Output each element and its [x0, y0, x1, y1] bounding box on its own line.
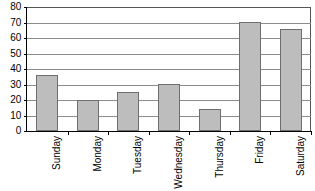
bar: [280, 29, 302, 131]
y-axis-tick-labels: 01020304050607080: [0, 0, 24, 133]
bar: [77, 100, 99, 131]
y-axis-tick-label: 10: [10, 111, 21, 121]
x-axis-tick-label: Monday: [92, 136, 103, 172]
bar-chart: 01020304050607080 SundayMondayTuesdayWed…: [0, 0, 315, 191]
y-axis-tick-label: 70: [10, 18, 21, 28]
x-axis-tick: [149, 131, 150, 135]
x-axis-tick: [230, 131, 231, 135]
y-axis-tick-label: 40: [10, 64, 21, 74]
bar: [199, 109, 221, 131]
x-axis-tick-label: Thursday: [214, 136, 225, 178]
x-axis-tick-label: Sunday: [51, 136, 62, 170]
bar: [239, 22, 261, 131]
bar: [117, 92, 139, 131]
x-axis-tick: [270, 131, 271, 135]
y-axis-tick-label: 80: [10, 2, 21, 12]
x-axis-tick-label: Tuesday: [132, 136, 143, 174]
y-axis-tick-label: 60: [10, 33, 21, 43]
y-axis-tick: [24, 131, 27, 132]
y-axis-tick-label: 0: [16, 126, 21, 136]
x-axis-tick-label: Wednesday: [173, 136, 184, 189]
plot-area: [26, 7, 311, 132]
x-axis-tick: [189, 131, 190, 135]
bar: [36, 75, 58, 131]
x-axis-tick-label: Saturday: [295, 136, 306, 176]
x-axis-tick: [108, 131, 109, 135]
x-axis-tick: [68, 131, 69, 135]
bar-series: [27, 7, 311, 131]
y-axis-tick-label: 30: [10, 80, 21, 90]
x-axis-tick-labels: SundayMondayTuesdayWednesdayThursdayFrid…: [26, 136, 310, 191]
x-axis-tick: [311, 131, 312, 135]
x-axis-tick-label: Friday: [254, 136, 265, 164]
bar: [158, 84, 180, 131]
y-axis-tick-label: 20: [10, 95, 21, 105]
y-axis-tick-label: 50: [10, 49, 21, 59]
